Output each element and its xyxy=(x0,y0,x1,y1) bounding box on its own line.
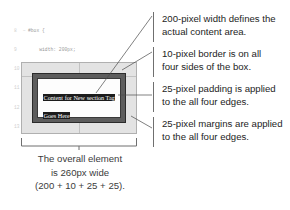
annotation-rule xyxy=(153,47,154,77)
annotation-border: 10-pixel border is on all four sides of … xyxy=(162,48,288,73)
box-model-figure: 8−#box { 9 width: 200px; 10 margin: 25px… xyxy=(0,0,290,210)
code-text: width: 200px; xyxy=(28,47,76,52)
code-text: #box { xyxy=(28,28,45,33)
content-text: Content for New section Tag Goes Here xyxy=(43,94,115,120)
margin-box: Content for New section Tag Goes Here xyxy=(21,62,137,134)
annotation-rule xyxy=(153,12,154,42)
overall-width-bracket xyxy=(21,138,137,150)
content-box: Content for New section Tag Goes Here xyxy=(43,86,115,110)
line-number: 8 xyxy=(14,28,23,34)
annotation-line: to the all four edges. xyxy=(162,131,288,144)
annotation-line: four sides of the box. xyxy=(162,61,288,74)
annotation-line: 25-pixel margins are applied xyxy=(162,118,288,131)
annotation-line: 10-pixel border is on all xyxy=(162,48,288,61)
line-number: 9 xyxy=(14,47,23,53)
annotation-rule xyxy=(153,82,154,112)
annotation-line: 25-pixel padding is applied xyxy=(162,83,288,96)
annotation-padding: 25-pixel padding is applied to the all f… xyxy=(162,83,288,108)
caption-line: The overall element xyxy=(6,152,154,166)
padding-box: Content for New section Tag Goes Here xyxy=(37,78,121,118)
figure-caption: The overall element is 260px wide (200 +… xyxy=(6,152,154,193)
code-line: 8−#box { xyxy=(14,28,144,34)
annotation-line: to the all four edges. xyxy=(162,96,288,109)
annotation-margin: 25-pixel margins are applied to the all … xyxy=(162,118,288,143)
annotation-rule xyxy=(153,117,154,147)
border-box: Content for New section Tag Goes Here xyxy=(32,73,126,123)
caption-line: is 260px wide xyxy=(6,166,154,180)
caption-line: (200 + 10 + 25 + 25). xyxy=(6,179,154,193)
annotation-line: 200-pixel width defines the xyxy=(162,13,288,26)
code-line: 9 width: 200px; xyxy=(14,47,144,53)
annotation-width: 200-pixel width defines the actual conte… xyxy=(162,13,288,38)
annotation-line: actual content area. xyxy=(162,26,288,39)
